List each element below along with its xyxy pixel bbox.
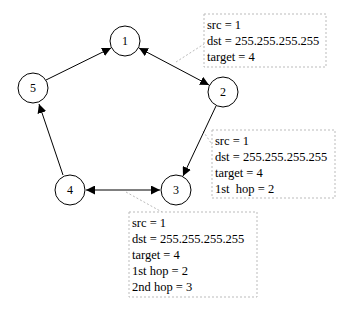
node-5-label: 5: [30, 81, 36, 95]
node-2-label: 2: [220, 85, 226, 99]
node-1: 1: [110, 26, 140, 56]
node-4-label: 4: [67, 183, 73, 197]
annotation-2-line-4: 1st hop = 2: [215, 182, 274, 196]
annotation-2-line-2: dst = 255.255.255.255: [215, 150, 327, 164]
annotation-box-1: src = 1 dst = 255.255.255.255 target = 4: [204, 14, 326, 67]
edge-4-to-5: [39, 104, 63, 175]
leader-line-box-1: [176, 44, 204, 62]
annotation-3-line-1: src = 1: [132, 216, 166, 230]
edge-1-2-bidirectional: [139, 48, 209, 85]
edge-5-to-1: [46, 48, 111, 80]
node-1-label: 1: [122, 34, 128, 48]
network-diagram: 1 2 3 4 5 src = 1 dst = 255.255.255.255 …: [0, 0, 353, 315]
annotation-1-line-3: target = 4: [207, 50, 256, 64]
edge-2-to-3: [183, 106, 216, 176]
annotation-box-2: src = 1 dst = 255.255.255.255 target = 4…: [212, 130, 335, 198]
annotation-box-3: src = 1 dst = 255.255.255.255 target = 4…: [129, 212, 257, 297]
leader-line-box-3: [126, 192, 162, 212]
annotation-3-line-3: target = 4: [132, 248, 181, 262]
node-3: 3: [161, 175, 191, 205]
node-3-label: 3: [173, 183, 179, 197]
node-4: 4: [55, 175, 85, 205]
node-2: 2: [208, 77, 238, 107]
annotation-3-line-2: dst = 255.255.255.255: [132, 232, 244, 246]
annotation-2-line-3: target = 4: [215, 166, 264, 180]
annotation-1-line-1: src = 1: [207, 18, 241, 32]
annotation-3-line-5: 2nd hop = 3: [132, 280, 192, 294]
annotation-2-line-1: src = 1: [215, 134, 249, 148]
annotation-1-line-2: dst = 255.255.255.255: [207, 34, 319, 48]
annotation-3-line-4: 1st hop = 2: [132, 264, 188, 278]
node-5: 5: [18, 73, 48, 103]
